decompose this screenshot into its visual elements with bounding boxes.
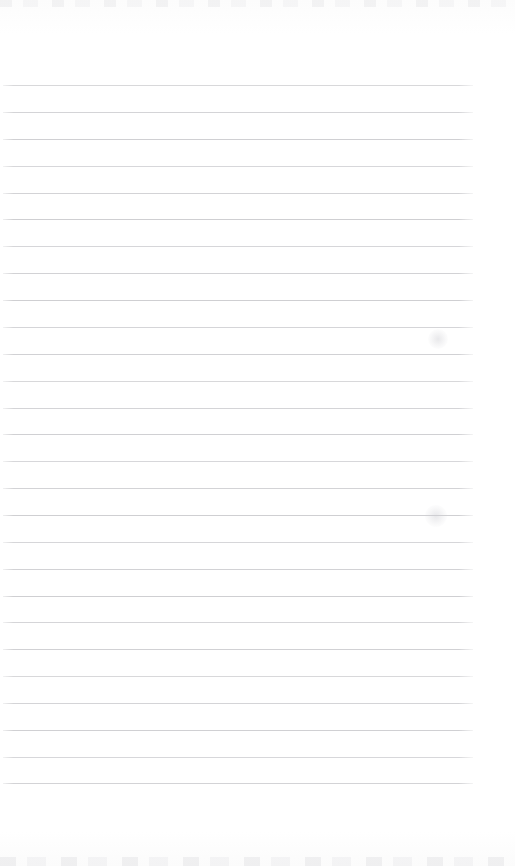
notebook-page	[0, 0, 515, 866]
writing-area[interactable]	[3, 60, 473, 800]
scan-noise-bottom-edge	[0, 857, 515, 866]
